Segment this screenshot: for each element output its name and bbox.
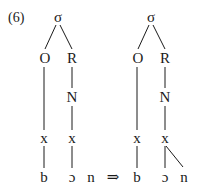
segment-right-2: ɔ [162, 170, 169, 185]
line-x-n-spread-right [166, 146, 183, 167]
line-sigma-onset-left [45, 25, 56, 49]
line-sigma-onset-right [138, 25, 149, 49]
segment-right-1: b [133, 170, 141, 185]
skeleton-slot-right-1: x [133, 131, 141, 146]
rime-node-left: R [67, 51, 77, 66]
nucleus-node-right: N [160, 90, 171, 105]
skeleton-slot-left-2: x [68, 131, 76, 146]
nucleus-node-left: N [67, 90, 78, 105]
example-number: (6) [8, 11, 24, 25]
segment-right-3: n [180, 170, 188, 185]
line-sigma-rime-left [60, 25, 72, 49]
derivation-arrow-icon: ⇒ [107, 170, 120, 185]
segment-left-1: b [40, 170, 48, 185]
rime-node-right: R [160, 51, 170, 66]
syllable-node-right: σ [147, 10, 155, 25]
line-sigma-rime-right [153, 25, 165, 49]
segment-left-3: n [87, 170, 95, 185]
skeleton-slot-left-1: x [40, 131, 48, 146]
onset-node-right: O [133, 51, 144, 66]
syllable-node-left: σ [54, 10, 62, 25]
segment-left-2: ɔ [69, 170, 76, 185]
skeleton-slot-right-2: x [161, 131, 169, 146]
onset-node-left: O [40, 51, 51, 66]
